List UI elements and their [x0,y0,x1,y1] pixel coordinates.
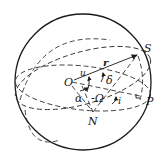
label-p: P [145,95,154,108]
label-u: u [80,68,86,78]
label-alpha: α [75,92,83,105]
label-s: S [144,42,152,55]
label-n: N [87,115,98,128]
label-r: r [103,57,109,68]
inclination-angle-arc [112,97,116,104]
u-angle-arc [87,77,89,92]
label-o: O [64,76,73,89]
s-to-p-arc [138,56,143,100]
delta-angle-arc [101,73,103,82]
label-delta: δ [106,74,113,87]
orbit-ellipse [9,34,158,123]
label-i: i [118,95,121,106]
label-raan: -Ω [91,92,104,105]
sphere-outline [15,14,151,150]
celestial-sphere-diagram: S P N O r u δ α -Ω i [0,0,166,159]
